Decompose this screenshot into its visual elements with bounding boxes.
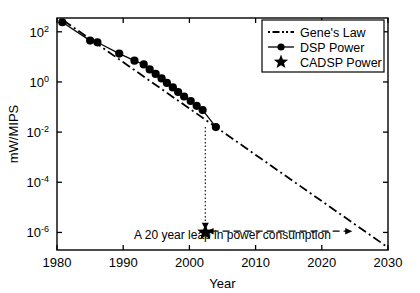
x-tick-label: 2000 [175,255,204,270]
x-axis-title: Year [209,276,236,291]
dsp-power-marker [115,50,123,58]
y-axis-title: mW/MIPS [6,104,21,163]
x-tick-label: 2020 [307,255,336,270]
y-tick-exponent: -6 [41,224,49,234]
legend-label: CADSP Power [300,56,382,70]
x-tick-label: 2030 [374,255,403,270]
x-tick-label: 1990 [109,255,138,270]
y-tick-exponent: 0 [44,74,49,84]
x-tick-label: 2010 [241,255,270,270]
y-tick-exponent: -4 [41,174,49,184]
dsp-power-marker [212,123,220,131]
dsp-power-marker [93,38,101,46]
dsp-power-marker [86,36,94,44]
y-tick-exponent: -2 [41,124,49,134]
figure-container: 198019902000201020202030 10210010-210-41… [0,0,420,293]
dsp-power-marker [199,106,207,114]
legend-label: Gene's Law [300,26,367,40]
y-tick-exponent: 2 [44,24,49,34]
legend-marker-circle-icon [277,43,284,50]
x-tick-label: 1980 [43,255,72,270]
dsp-power-marker [130,57,138,65]
chart-legend: Gene's LawDSP PowerCADSP Power [262,20,384,72]
leap-caption-text: A 20 year leap in power consumption [134,228,331,242]
power-consumption-chart: 198019902000201020202030 10210010-210-41… [0,0,420,293]
legend-label: DSP Power [300,41,364,55]
dsp-power-marker [58,18,66,26]
